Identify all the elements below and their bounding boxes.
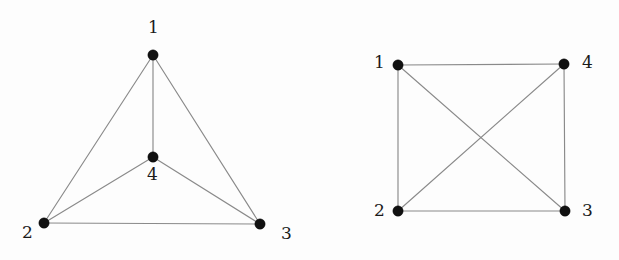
vertex-label-3: 3 bbox=[582, 202, 593, 219]
graph-vertex-1 bbox=[393, 60, 403, 70]
graph-vertex-4 bbox=[559, 59, 569, 69]
graph-vertex-2 bbox=[39, 218, 49, 228]
graph-edge-e1-4 bbox=[398, 64, 564, 65]
graph-edge-e4-3 bbox=[564, 64, 565, 211]
vertices-layer bbox=[39, 50, 570, 229]
graph-edge-e1-2 bbox=[44, 55, 153, 223]
vertex-label-4: 4 bbox=[582, 54, 593, 71]
graph-vertex-3 bbox=[255, 219, 265, 229]
graph-edge-e2-4 bbox=[44, 157, 153, 223]
graph-edge-e2-3 bbox=[44, 223, 260, 224]
graph-vertex-3 bbox=[560, 206, 570, 216]
edges-layer bbox=[44, 55, 565, 224]
right-graph-edges bbox=[398, 64, 565, 211]
figure-container: 12341234 bbox=[0, 0, 619, 260]
graph-vertex-1 bbox=[148, 50, 158, 60]
graph-canvas bbox=[0, 0, 619, 260]
graph-vertex-4 bbox=[148, 152, 158, 162]
left-graph-vertices bbox=[39, 50, 265, 229]
vertex-label-2: 2 bbox=[22, 224, 33, 241]
graph-vertex-2 bbox=[393, 206, 403, 216]
left-graph-edges bbox=[44, 55, 260, 224]
vertex-label-4: 4 bbox=[147, 166, 158, 183]
vertex-label-1: 1 bbox=[148, 19, 159, 36]
vertex-label-1: 1 bbox=[374, 54, 385, 71]
vertex-label-2: 2 bbox=[374, 202, 385, 219]
vertex-label-3: 3 bbox=[281, 225, 292, 242]
graph-edge-e3-4 bbox=[153, 157, 260, 224]
graph-edge-e1-3 bbox=[153, 55, 260, 224]
